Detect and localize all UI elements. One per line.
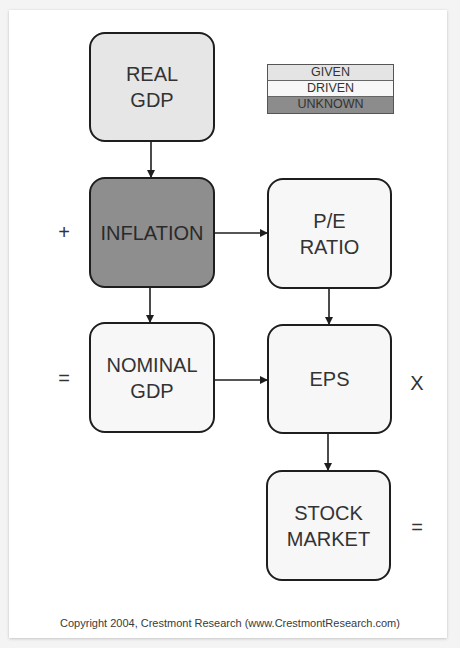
node-nominal-gdp: NOMINAL GDP <box>89 322 215 433</box>
legend-item-driven: DRIVEN <box>268 81 393 97</box>
operator-equals-left: = <box>52 366 76 390</box>
legend: GIVEN DRIVEN UNKNOWN <box>267 64 394 114</box>
copyright-footer: Copyright 2004, Crestmont Research (www.… <box>0 617 460 629</box>
legend-item-unknown: UNKNOWN <box>268 97 393 113</box>
node-stock-market: STOCK MARKET <box>266 470 391 581</box>
node-pe-ratio: P/E RATIO <box>267 178 392 289</box>
operator-times: X <box>405 371 429 395</box>
node-eps: EPS <box>267 324 392 434</box>
operator-plus: + <box>52 220 76 244</box>
node-real-gdp: REAL GDP <box>89 32 215 142</box>
operator-equals-right: = <box>405 515 429 539</box>
legend-item-given: GIVEN <box>268 65 393 81</box>
node-inflation: INFLATION <box>89 177 215 288</box>
